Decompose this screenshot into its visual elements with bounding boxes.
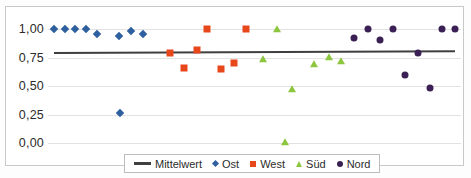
data-point-nord xyxy=(451,26,458,33)
data-point-nord xyxy=(427,85,434,92)
data-point-west xyxy=(204,26,211,33)
data-point-nord xyxy=(414,49,421,56)
circle-swatch-icon xyxy=(337,161,343,167)
data-point-süd xyxy=(325,53,333,60)
data-point-nord xyxy=(350,34,357,41)
data-point-west xyxy=(193,47,200,54)
legend-item-nord[interactable]: Nord xyxy=(337,158,371,170)
y-axis-tick-label: 0,75 xyxy=(4,51,44,65)
scatter-chart: 1,000,750,500,250,00 MittelwertOstWestSü… xyxy=(0,0,471,178)
data-point-süd xyxy=(337,57,345,64)
legend-item-label: Mittelwert xyxy=(155,158,202,170)
legend-item-ost[interactable]: Ost xyxy=(213,158,239,170)
legend-item-label: Süd xyxy=(306,158,326,170)
data-point-süd xyxy=(273,25,281,32)
data-point-ost xyxy=(139,30,147,38)
gridline xyxy=(48,86,461,87)
data-point-west xyxy=(218,66,225,73)
data-point-süd xyxy=(310,60,318,67)
gridline xyxy=(48,29,461,30)
data-point-nord xyxy=(377,36,384,43)
data-point-ost xyxy=(82,25,90,33)
data-point-ost xyxy=(71,25,79,33)
y-axis-tick-label: 1,00 xyxy=(4,22,44,36)
data-point-west xyxy=(181,64,188,71)
gridline xyxy=(48,115,461,116)
legend-item-label: West xyxy=(260,158,285,170)
data-point-west xyxy=(166,49,173,56)
y-axis-tick-label: 0,00 xyxy=(4,136,44,150)
legend-item-label: Nord xyxy=(347,158,371,170)
data-point-süd xyxy=(281,138,289,145)
y-axis-tick-label: 0,50 xyxy=(4,79,44,93)
diamond-swatch-icon xyxy=(212,160,219,167)
triangle-swatch-icon xyxy=(296,161,302,167)
data-point-west xyxy=(230,60,237,67)
data-point-ost xyxy=(60,25,68,33)
plot-area xyxy=(48,29,461,143)
gridline xyxy=(48,143,461,144)
data-point-ost xyxy=(92,30,100,38)
data-point-ost xyxy=(126,26,134,34)
data-point-west xyxy=(243,26,250,33)
legend-item-label: Ost xyxy=(222,158,239,170)
mean-reference-line xyxy=(54,51,455,55)
chart-legend: MittelwertOstWestSüdNord xyxy=(124,154,380,173)
data-point-nord xyxy=(365,26,372,33)
y-axis-tick-label: 0,25 xyxy=(4,108,44,122)
data-point-nord xyxy=(389,26,396,33)
data-point-nord xyxy=(402,71,409,78)
legend-item-mittelwert[interactable]: Mittelwert xyxy=(134,158,202,170)
data-point-ost xyxy=(116,109,124,117)
square-swatch-icon xyxy=(250,161,256,167)
legend-item-west[interactable]: West xyxy=(250,158,285,170)
data-point-süd xyxy=(259,55,267,62)
chart-frame: 1,000,750,500,250,00 MittelwertOstWestSü… xyxy=(5,6,464,166)
gridline xyxy=(48,58,461,59)
legend-item-süd[interactable]: Süd xyxy=(296,158,326,170)
data-point-ost xyxy=(50,25,58,33)
data-point-nord xyxy=(439,26,446,33)
data-point-süd xyxy=(288,86,296,93)
line-swatch-icon xyxy=(134,162,151,165)
data-point-ost xyxy=(115,32,123,40)
y-axis: 1,000,750,500,250,00 xyxy=(6,29,44,143)
